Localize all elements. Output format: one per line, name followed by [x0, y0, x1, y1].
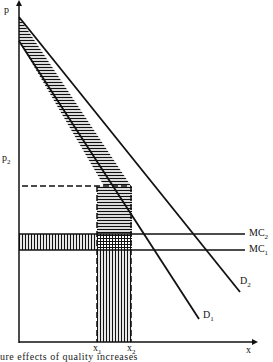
consumer-surplus-gain-area: [19, 17, 131, 186]
price-quantity-area: [97, 186, 132, 234]
x-axis-arrow-icon: [252, 339, 258, 345]
mc2-label: MC2: [249, 227, 269, 241]
x-axis-label: x: [246, 344, 251, 355]
cost-increase-area: [19, 234, 97, 250]
quantity-gain-area: [97, 250, 132, 342]
d1-label: D1: [203, 309, 214, 323]
welfare-diagram: p x p2 x1 x2 D1 D2 MC1 MC2: [0, 0, 273, 362]
p2-label: p2: [2, 152, 11, 166]
y-axis-label: p: [4, 4, 9, 15]
figure-caption: ure effects of quality increases: [0, 351, 138, 362]
cost-overlap-area: [97, 234, 132, 250]
y-axis-arrow-icon: [16, 0, 22, 6]
d2-label: D2: [240, 275, 251, 289]
mc1-label: MC1: [249, 243, 269, 257]
